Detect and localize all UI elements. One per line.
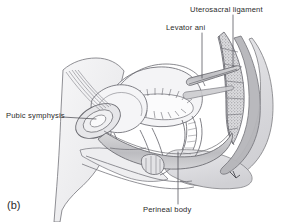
label-pubic-symphysis: Pubic symphysis [6,112,65,120]
cervix-posterior [192,116,197,150]
panel-letter: (b) [7,200,20,211]
label-levator-ani: Levator ani [166,24,205,32]
figure-panel-b: Uterosacral ligament Levator ani Pubic s… [0,0,286,222]
label-uterosacral-ligament: Uterosacral ligament [190,6,263,14]
label-perineal-body: Perineal body [143,206,191,214]
